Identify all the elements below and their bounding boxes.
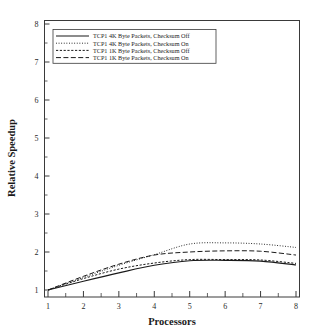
x-tick-label: 5	[188, 302, 192, 311]
x-axis-title: Processors	[148, 316, 196, 327]
legend-item-label: TCP1 4K Byte Packets, Checksum Off	[93, 32, 190, 39]
x-tick-label: 4	[152, 302, 156, 311]
y-axis-title: Relative Speedup	[6, 119, 17, 197]
y-tick-label: 6	[35, 96, 39, 105]
y-tick-label: 3	[35, 210, 39, 219]
legend-item-label: TCP1 4K Byte Packets, Checksum On	[93, 40, 189, 47]
relative-speedup-line-chart: 12345678 12345678 TCP1 4K Byte Packets, …	[0, 0, 319, 334]
x-tick-label: 7	[259, 302, 263, 311]
y-tick-label: 7	[35, 58, 39, 67]
chart-figure: 12345678 12345678 TCP1 4K Byte Packets, …	[0, 0, 319, 334]
y-tick-label: 8	[35, 20, 39, 29]
y-tick-label: 2	[35, 248, 39, 257]
legend-item-label: TCP1 1K Byte Packets, Checksum On	[93, 54, 189, 61]
x-tick-label: 2	[81, 302, 85, 311]
chart-legend: TCP1 4K Byte Packets, Checksum OffTCP1 4…	[53, 30, 216, 64]
x-tick-label: 3	[117, 302, 121, 311]
y-tick-label: 1	[35, 286, 39, 295]
x-tick-label: 1	[46, 302, 50, 311]
legend-item-label: TCP1 1K Byte Packets, Checksum Off	[93, 47, 190, 54]
x-tick-label: 6	[223, 302, 227, 311]
x-tick-label: 8	[294, 302, 298, 311]
y-tick-label: 5	[35, 134, 39, 143]
y-tick-label: 4	[35, 172, 39, 181]
